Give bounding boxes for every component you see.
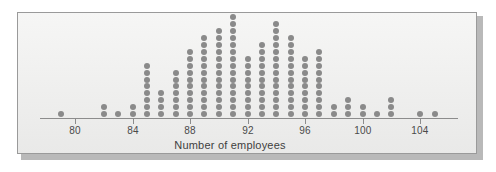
data-dot	[245, 63, 251, 69]
x-axis-tick-label: 80	[69, 125, 81, 136]
x-axis-title: Number of employees	[17, 139, 460, 151]
data-dot	[216, 104, 222, 110]
data-dot	[302, 97, 308, 103]
x-axis-tick-label: 92	[242, 125, 254, 136]
data-dot	[201, 83, 207, 89]
data-dot	[216, 56, 222, 62]
data-dot	[273, 70, 279, 76]
data-dot	[273, 63, 279, 69]
data-dot	[230, 97, 236, 103]
data-dot	[259, 111, 265, 117]
data-dot	[302, 111, 308, 117]
data-dot	[230, 90, 236, 96]
data-dot	[187, 97, 193, 103]
data-dot	[245, 77, 251, 83]
data-dot	[144, 111, 150, 117]
data-dot	[101, 104, 107, 110]
data-dot	[245, 56, 251, 62]
data-dot	[144, 97, 150, 103]
data-dot	[259, 70, 265, 76]
data-dot	[216, 35, 222, 41]
data-dot	[158, 104, 164, 110]
data-dot	[230, 21, 236, 27]
data-dot	[245, 111, 251, 117]
data-dot	[316, 56, 322, 62]
data-dot	[144, 90, 150, 96]
data-dot	[201, 49, 207, 55]
data-dot	[173, 104, 179, 110]
data-dot	[331, 104, 337, 110]
x-axis-tick-label: 84	[127, 125, 139, 136]
data-dot	[187, 111, 193, 117]
data-dot	[288, 104, 294, 110]
data-dot	[388, 111, 394, 117]
data-dot	[201, 90, 207, 96]
plot-area: 8084889296100104 Number of employees	[18, 13, 477, 154]
data-dot	[259, 97, 265, 103]
x-axis-tick-label: 100	[354, 125, 371, 136]
data-dot	[288, 83, 294, 89]
data-dot	[230, 63, 236, 69]
data-dot	[259, 104, 265, 110]
x-axis-tick	[133, 119, 134, 124]
x-axis-line	[40, 118, 458, 119]
data-dot	[259, 49, 265, 55]
data-dot	[288, 70, 294, 76]
data-dot	[58, 111, 64, 117]
data-dot	[230, 70, 236, 76]
data-dot	[201, 70, 207, 76]
data-dot	[144, 83, 150, 89]
data-dot	[432, 111, 438, 117]
data-dot	[201, 63, 207, 69]
data-dot	[187, 83, 193, 89]
data-dot	[245, 104, 251, 110]
data-dot	[230, 77, 236, 83]
data-dot	[173, 111, 179, 117]
data-dot	[173, 97, 179, 103]
data-dot	[187, 63, 193, 69]
data-dot	[259, 56, 265, 62]
data-dot	[374, 111, 380, 117]
data-dot	[273, 77, 279, 83]
data-dot	[201, 56, 207, 62]
data-dot	[273, 49, 279, 55]
dot-plot-figure: 8084889296100104 Number of employees	[0, 0, 496, 172]
x-axis-tick-label: 96	[299, 125, 311, 136]
data-dot	[230, 28, 236, 34]
data-dot	[302, 70, 308, 76]
data-dot	[201, 97, 207, 103]
x-axis-tick	[75, 119, 76, 124]
data-dot	[158, 90, 164, 96]
data-dot	[230, 14, 236, 20]
data-dot	[216, 63, 222, 69]
x-axis-tick	[363, 119, 364, 124]
data-dot	[187, 70, 193, 76]
data-dot	[259, 83, 265, 89]
data-dot	[302, 77, 308, 83]
data-dot	[316, 77, 322, 83]
data-dot	[144, 63, 150, 69]
x-axis-tick	[190, 119, 191, 124]
data-dot	[216, 70, 222, 76]
data-dot	[216, 83, 222, 89]
data-dot	[288, 97, 294, 103]
data-dot	[144, 70, 150, 76]
data-dot	[216, 97, 222, 103]
data-dot	[388, 104, 394, 110]
data-dot	[360, 104, 366, 110]
data-dot	[302, 63, 308, 69]
x-axis-tick-label: 88	[184, 125, 196, 136]
data-dot	[259, 77, 265, 83]
data-dot	[273, 111, 279, 117]
x-axis-tick	[305, 119, 306, 124]
data-dot	[201, 35, 207, 41]
data-dot	[201, 104, 207, 110]
data-dot	[316, 70, 322, 76]
data-dot	[201, 111, 207, 117]
data-dot	[273, 28, 279, 34]
data-dot	[158, 111, 164, 117]
data-dot	[230, 104, 236, 110]
data-dot	[216, 28, 222, 34]
data-dot	[302, 83, 308, 89]
data-dot	[173, 83, 179, 89]
